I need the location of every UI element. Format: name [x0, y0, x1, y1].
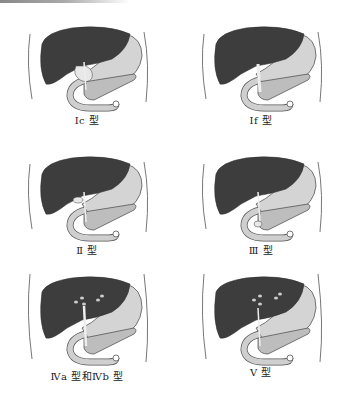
diagram-panel-iva-ivb: Ⅳa 型和Ⅳb 型 [12, 264, 162, 389]
anatomy-illustration [186, 134, 336, 244]
panel-label: Ⅰc 型 [12, 112, 162, 127]
anatomy-illustration [12, 264, 162, 374]
diagram-panel-ic: Ⅰc 型 [12, 4, 162, 129]
diagram-panel-ii: Ⅱ 型 [12, 134, 162, 259]
panel-label: Ⅰf 型 [186, 112, 336, 127]
panel-label: Ⅱ 型 [12, 242, 162, 257]
anatomy-illustration [186, 264, 336, 374]
panel-label: Ⅲ 型 [186, 242, 336, 257]
anatomy-illustration [12, 4, 162, 114]
diagram-panel-v: Ⅴ 型 [186, 264, 336, 389]
anatomy-illustration [186, 4, 336, 114]
diagram-panel-if: Ⅰf 型 [186, 4, 336, 129]
panel-label: Ⅳa 型和Ⅳb 型 [12, 368, 162, 383]
anatomy-illustration [12, 134, 162, 244]
diagram-panel-iii: Ⅲ 型 [186, 134, 336, 259]
page-edge-shadow [0, 0, 130, 3]
panel-label: Ⅴ 型 [186, 364, 336, 379]
